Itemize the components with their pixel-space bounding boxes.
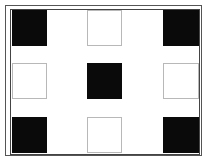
filled-square-r2c2 xyxy=(163,117,199,153)
filled-square-r0c2 xyxy=(163,10,199,46)
outlined-square-r0c1 xyxy=(87,10,122,46)
filled-square-r0c0 xyxy=(12,10,47,46)
outlined-square-r1c2 xyxy=(163,63,199,99)
filled-square-r1c1 xyxy=(87,63,122,99)
outlined-square-r1c0 xyxy=(12,63,47,99)
filled-square-r2c0 xyxy=(12,117,47,153)
outlined-square-r2c1 xyxy=(87,117,122,153)
